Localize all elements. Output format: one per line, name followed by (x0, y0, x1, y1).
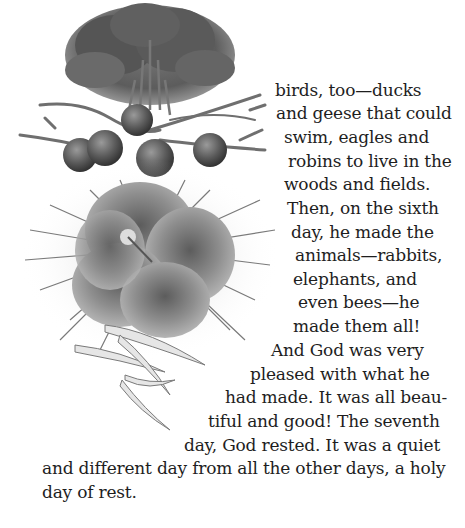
book-page: birds, too—ducks and geese that could sw… (0, 0, 465, 528)
text-line: swim, eagles and (284, 127, 429, 147)
text-line: woods and fields. (284, 174, 430, 194)
text-line: day, God rested. It was a quiet (184, 435, 440, 455)
text-line: made them all! (293, 316, 420, 336)
text-line: even bees—he (298, 292, 419, 312)
text-line: day of rest. (42, 482, 137, 502)
text-line: And God was very (271, 340, 424, 360)
text-line: day, he made the (291, 222, 434, 242)
text-line: pleased with what he (250, 364, 430, 384)
text-line: and geese that could (276, 103, 452, 123)
text-line: robins to live in the (288, 151, 452, 171)
text-line: birds, too—ducks (275, 80, 421, 100)
text-line: Then, on the sixth (287, 198, 439, 218)
tree (65, 3, 235, 115)
text-line: and different day from all the other day… (42, 458, 445, 478)
text-line: tiful and good! The seventh (208, 411, 440, 431)
text-line: animals—rabbits, (295, 245, 442, 265)
text-line: elephants, and (293, 269, 417, 289)
text-line: had made. It was all beau- (225, 387, 447, 407)
